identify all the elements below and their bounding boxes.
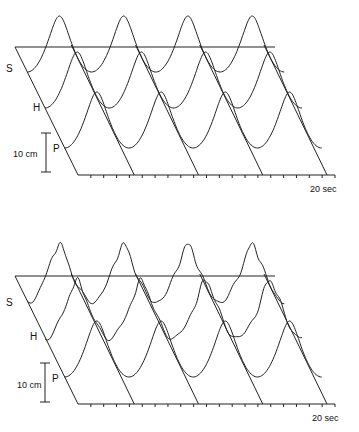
wave-plot-svg: S H P 10 cm 20 sec S H P 10 cm 20 sec xyxy=(0,0,359,432)
wave-trace-s xyxy=(27,242,284,303)
wave-trace-h xyxy=(45,52,302,108)
label-p-top: P xyxy=(53,143,60,154)
crest-line xyxy=(264,274,327,404)
bottom-panel xyxy=(15,242,335,407)
top-panel xyxy=(15,16,335,178)
crest-line xyxy=(71,274,134,404)
time-label-bottom: 20 sec xyxy=(312,413,339,423)
scale-label-top: 10 cm xyxy=(13,149,38,159)
scale-bar-top xyxy=(41,133,51,172)
crest-line xyxy=(136,274,199,404)
crest-line xyxy=(71,45,134,175)
scale-label-bottom: 10 cm xyxy=(17,380,42,390)
wave-trace-p xyxy=(65,92,322,148)
label-p-bottom: P xyxy=(52,373,59,384)
label-s-top: S xyxy=(6,63,13,74)
wave-trace-h xyxy=(45,277,302,340)
label-s-bottom: S xyxy=(6,297,13,308)
wave-trace-p xyxy=(65,321,322,377)
time-label-top: 20 sec xyxy=(310,184,337,194)
crest-line xyxy=(200,45,263,175)
crest-line xyxy=(136,45,199,175)
label-h-top: H xyxy=(33,102,40,113)
crest-line xyxy=(200,274,263,404)
label-h-bottom: H xyxy=(30,331,37,342)
wave-trace-s xyxy=(27,16,284,72)
wave-figure: S H P 10 cm 20 sec S H P 10 cm 20 sec xyxy=(0,0,359,432)
crest-line xyxy=(264,45,327,175)
